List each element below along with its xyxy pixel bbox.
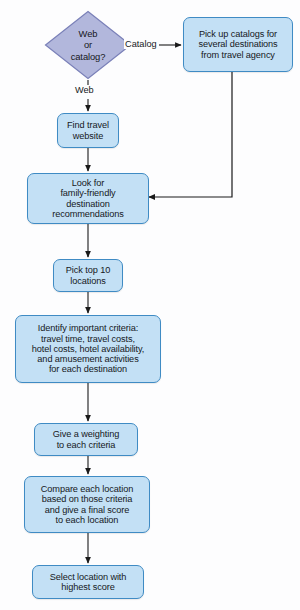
edge-label-web: Web xyxy=(74,85,95,95)
node-select-location-label: Select location with highest score xyxy=(50,572,127,593)
node-pick-up-catalogs[interactable]: Pick up catalogs for several destination… xyxy=(183,17,293,72)
node-find-travel-website-label: Find travel website xyxy=(67,120,109,141)
node-identify-important-criteria[interactable]: Identify important criteria: travel time… xyxy=(15,315,161,383)
node-find-travel-website[interactable]: Find travel website xyxy=(57,113,119,148)
node-pick-top-10-locations[interactable]: Pick top 10 locations xyxy=(53,259,123,292)
node-compare-each-location[interactable]: Compare each location based on those cri… xyxy=(24,476,150,533)
node-decision-web-or-catalog[interactable]: Web or catalog? xyxy=(44,10,132,80)
node-pick-top-10-locations-label: Pick top 10 locations xyxy=(66,265,110,286)
node-give-a-weighting-label: Give a weighting to each criteria xyxy=(53,429,119,450)
node-look-for-recommendations[interactable]: Look for family-friendly destination rec… xyxy=(27,173,149,224)
node-decision-web-or-catalog-label: Web or catalog? xyxy=(71,28,106,62)
edge-pickup-to-look-for xyxy=(149,72,232,197)
flowchart-canvas: Web or catalog? Catalog Web Pick up cata… xyxy=(0,0,300,610)
node-look-for-recommendations-label: Look for family-friendly destination rec… xyxy=(52,178,124,219)
node-pick-up-catalogs-label: Pick up catalogs for several destination… xyxy=(198,29,277,60)
edge-label-catalog: Catalog xyxy=(124,39,158,49)
node-select-location[interactable]: Select location with highest score xyxy=(32,565,144,599)
node-identify-important-criteria-label: Identify important criteria: travel time… xyxy=(32,323,145,374)
node-compare-each-location-label: Compare each location based on those cri… xyxy=(41,484,133,525)
node-give-a-weighting[interactable]: Give a weighting to each criteria xyxy=(34,423,138,456)
